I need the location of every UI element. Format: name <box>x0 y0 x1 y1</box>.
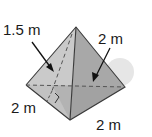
label-front-base-edge: 2 m <box>96 117 121 132</box>
pyramid-diagram: 1.5 m 2 m 2 m 2 m <box>0 0 152 137</box>
label-slant-height: 1.5 m <box>3 22 41 37</box>
label-right-edge: 2 m <box>98 31 123 46</box>
label-left-base-edge: 2 m <box>11 100 36 115</box>
arrow-slant <box>32 42 51 68</box>
